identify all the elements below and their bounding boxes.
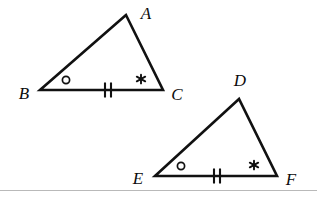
vertex-label-c: C <box>171 86 182 103</box>
circle-mark-angle-e <box>177 162 184 169</box>
triangle-def <box>155 99 277 184</box>
vertex-label-d: D <box>234 72 246 89</box>
circle-mark-angle-b <box>62 76 69 83</box>
triangle-abc <box>40 15 163 98</box>
asterisk-mark-angle-c <box>137 75 145 84</box>
bottom-divider <box>0 190 317 191</box>
vertex-label-a: A <box>141 5 151 22</box>
vertex-label-e: E <box>133 170 143 187</box>
geometry-canvas <box>0 0 317 199</box>
asterisk-mark-angle-f <box>250 161 258 170</box>
vertex-label-b: B <box>19 85 29 102</box>
geometry-figure: A B C D E F <box>0 0 317 199</box>
vertex-label-f: F <box>286 171 296 188</box>
triangle-abc-outline <box>40 15 163 90</box>
triangle-def-outline <box>155 99 277 176</box>
